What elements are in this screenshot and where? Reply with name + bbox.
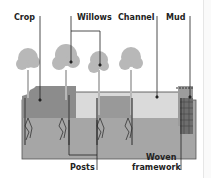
label-woven: Woven [146,153,176,162]
label-channel: Channel [118,13,155,22]
scrollbar-track [203,0,211,178]
label-mud: Mud [166,13,185,22]
label-posts: Posts [70,163,95,172]
cross-section-illustration [0,0,211,178]
label-willows: Willows [77,13,112,22]
chinampa-diagram: Crop Willows Channel Mud Posts Woven fra… [0,0,211,178]
label-framework: framework [132,163,181,172]
middle-mound [98,96,132,118]
woven-framework-shape [180,98,193,134]
crop-mound [22,86,76,118]
label-crop: Crop [14,13,35,22]
